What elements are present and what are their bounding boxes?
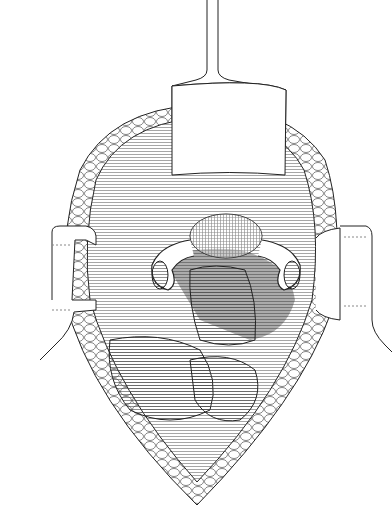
surgical-illustration [0, 0, 392, 529]
uterus [190, 214, 262, 258]
right-retractor [316, 226, 392, 352]
top-retractor-blade [172, 83, 286, 175]
